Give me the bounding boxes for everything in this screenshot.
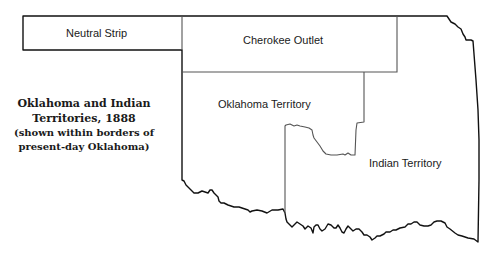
territory-border — [285, 72, 364, 213]
cherokee-outlet-label: Cherokee Outlet — [243, 34, 323, 46]
title-line-1: Oklahoma and Indian — [4, 96, 164, 111]
title-line-2: Territories, 1888 — [4, 111, 164, 126]
neutral-strip-label: Neutral Strip — [66, 27, 127, 39]
oklahoma-territory-label: Oklahoma Territory — [218, 98, 311, 110]
map-title: Oklahoma and Indian Territories, 1888 (s… — [4, 96, 164, 154]
indian-territory-label: Indian Territory — [369, 157, 442, 169]
subtitle-line-1: (shown within borders of — [4, 126, 164, 140]
subtitle-line-2: present-day Oklahoma) — [4, 140, 164, 154]
